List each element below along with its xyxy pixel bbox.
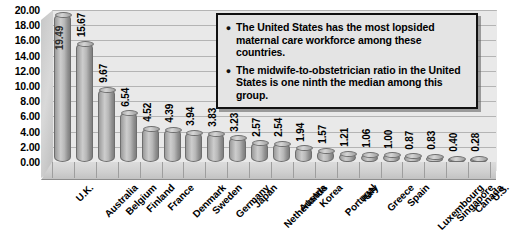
bar-value-label: 1.57 [317, 125, 334, 144]
y-axis: 20.0018.0016.0014.0012.0010.008.006.004.… [0, 0, 40, 237]
bar-cylinder [404, 155, 421, 162]
bar: 1.00 [383, 124, 405, 162]
bar-cylinder [164, 129, 181, 162]
bar: 2.54 [273, 113, 295, 162]
bar-value-label: 0.87 [404, 131, 421, 150]
callout-item-text: The midwife-to-obstetrician ratio in the… [236, 64, 468, 102]
bar-value-label: 0.28 [470, 133, 487, 152]
bar-value-label: 0.40 [448, 133, 465, 152]
bar-value-label: 2.57 [251, 118, 268, 137]
bar-value-label: 9.67 [98, 64, 115, 83]
y-axis-tick-label: 18.00 [2, 20, 40, 30]
callout-item-text: The United States has the most lopsided … [236, 21, 468, 59]
bar-value-label: 3.94 [185, 107, 202, 126]
bar: 3.83 [207, 103, 229, 162]
bar-cylinder [383, 154, 400, 162]
y-axis-tick-label: 14.00 [2, 51, 40, 61]
bar-cap [55, 12, 72, 18]
bullet-icon: ● [224, 68, 233, 74]
bar: 19.49 [54, 0, 76, 162]
bar-value-label: 0.83 [426, 131, 443, 150]
bar: 1.21 [339, 123, 361, 162]
bar-cap [296, 145, 313, 151]
bullet-icon: ● [224, 25, 233, 31]
bar-cap [362, 152, 379, 158]
annotation-callout: ● The United States has the most lopside… [216, 13, 478, 109]
bar-cap [165, 127, 182, 133]
bar-cylinder [185, 132, 202, 162]
bar-cap [318, 148, 335, 154]
bar-value-label: 4.52 [142, 103, 159, 122]
bar-cap [384, 152, 401, 158]
bar-cap [274, 141, 291, 147]
bar-value-label: 15.67 [76, 13, 93, 37]
bar-cap [340, 151, 357, 157]
bar: 0.40 [448, 128, 470, 162]
bar: 1.94 [295, 117, 317, 162]
bar-cap [77, 41, 94, 47]
bar: 3.23 [229, 107, 251, 162]
x-axis-category-label: Japan [252, 182, 280, 210]
y-axis-tick-label: 16.00 [2, 35, 40, 45]
bar: 1.57 [317, 120, 339, 162]
bar-cap [252, 140, 269, 146]
bar-cap [427, 154, 444, 160]
bar-cap [230, 135, 247, 141]
bar-value-label: 4.39 [164, 104, 181, 123]
bar-value-label: 2.54 [273, 118, 290, 137]
x-axis-category-label: U.K. [74, 182, 96, 204]
bar-cap [449, 156, 466, 162]
bar-cap [99, 87, 116, 93]
bar-cap [208, 131, 225, 137]
bar: 0.87 [404, 125, 426, 162]
bar-value-label: 3.83 [207, 108, 224, 127]
bar: 2.57 [251, 112, 273, 162]
bar-value-label: 3.23 [229, 113, 246, 132]
bar-cap [143, 126, 160, 132]
bar-cylinder [317, 150, 334, 162]
callout-item: ● The midwife-to-obstetrician ratio in t… [224, 64, 468, 102]
bar-cylinder [142, 128, 159, 162]
bar-cylinder [448, 158, 465, 162]
bar: 4.39 [164, 99, 186, 162]
bar-cap [471, 156, 488, 162]
bar: 9.67 [98, 59, 120, 162]
y-axis-tick-label: 8.00 [2, 96, 40, 106]
bar-cylinder [295, 147, 312, 162]
bar-cylinder [251, 142, 268, 162]
bar-cap [405, 153, 422, 159]
y-axis-tick-label: 12.00 [2, 66, 40, 76]
bar-cap [186, 130, 203, 136]
bar-value-label: 1.06 [361, 129, 378, 148]
bar-cylinder [470, 158, 487, 162]
bar-cylinder [98, 89, 115, 162]
bar-value-label: 1.21 [339, 128, 356, 147]
bar: 4.52 [142, 98, 164, 162]
bar: 1.06 [361, 124, 383, 162]
bar-cylinder [76, 43, 93, 162]
bar-cylinder [273, 143, 290, 162]
bar-cylinder [229, 137, 246, 162]
callout-item: ● The United States has the most lopside… [224, 21, 468, 59]
y-axis-tick-label: 2.00 [2, 142, 40, 152]
bar-value-label: 19.49 [54, 26, 71, 50]
bar-cylinder [120, 112, 137, 162]
bar-value-label: 1.00 [383, 130, 400, 149]
x-axis-labels: U.K.AustraliaBelgiumFinlandFranceDenmark… [41, 180, 501, 237]
bar: 15.67 [76, 13, 98, 162]
y-axis-tick-label: 0.00 [2, 157, 40, 167]
bar-cylinder [426, 156, 443, 162]
bar: 3.94 [185, 102, 207, 162]
bar: 0.83 [426, 126, 448, 162]
bar-cylinder [361, 154, 378, 162]
bar: 0.28 [470, 128, 492, 162]
bar-cylinder [207, 133, 224, 162]
y-axis-tick-label: 4.00 [2, 127, 40, 137]
y-axis-tick-label: 20.00 [2, 5, 40, 15]
y-axis-tick-label: 10.00 [2, 81, 40, 91]
bar-value-label: 6.54 [120, 88, 137, 107]
y-axis-tick-label: 6.00 [2, 111, 40, 121]
bar: 6.54 [120, 82, 142, 162]
bar-cap [121, 110, 138, 116]
